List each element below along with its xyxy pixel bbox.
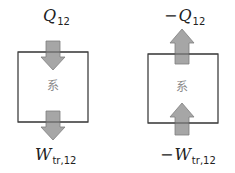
heat-label-right: −Q12 <box>164 8 205 24</box>
subscript: tr,12 <box>192 155 216 166</box>
system-label-left: 系 <box>47 80 59 92</box>
sign: − <box>164 6 177 25</box>
symbol: W <box>174 145 190 164</box>
work-label-left: Wtr,12 <box>34 147 76 163</box>
heat-label-left: Q12 <box>42 8 70 24</box>
symbol: Q <box>43 6 56 25</box>
symbol: W <box>35 145 51 164</box>
subscript: 12 <box>57 16 70 27</box>
sign: − <box>160 145 173 164</box>
work-label-right: −Wtr,12 <box>160 147 216 163</box>
subscript: tr,12 <box>52 155 76 166</box>
system-label-right: 系 <box>176 81 188 93</box>
subscript: 12 <box>193 16 206 27</box>
symbol: Q <box>178 6 191 25</box>
